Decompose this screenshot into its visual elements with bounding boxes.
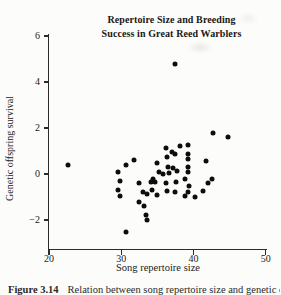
figure-caption-number: Figure 3.14 — [8, 284, 59, 295]
data-point — [174, 168, 179, 173]
data-point — [172, 190, 177, 195]
data-point — [174, 180, 179, 185]
figure-caption-text: Relation between song repertoire size an… — [68, 284, 280, 295]
x-axis-title: Song repertoire size — [97, 262, 219, 273]
data-point — [137, 199, 142, 204]
data-point — [137, 181, 142, 186]
y-tick-mark — [44, 81, 49, 82]
data-point — [144, 191, 149, 196]
y-tick-label: −2 — [18, 214, 40, 226]
y-tick-mark — [44, 219, 49, 220]
y-tick-label: 0 — [18, 168, 40, 180]
data-point — [116, 169, 121, 174]
y-axis-title: Genetic offspring survival — [4, 83, 15, 215]
data-point — [155, 160, 160, 165]
y-tick-label: 2 — [18, 122, 40, 134]
data-point — [161, 172, 166, 177]
data-point — [210, 176, 215, 181]
data-point — [124, 229, 129, 234]
data-point — [186, 190, 191, 195]
y-tick-mark — [44, 35, 49, 36]
data-point — [172, 61, 177, 66]
y-tick-mark — [44, 127, 49, 128]
y-tick-mark — [44, 173, 49, 174]
data-point — [187, 183, 192, 188]
y-axis-line — [48, 34, 49, 250]
data-point — [210, 130, 215, 135]
data-point — [182, 176, 187, 181]
data-point — [205, 181, 210, 186]
data-point — [164, 145, 169, 150]
data-point — [172, 152, 177, 157]
data-point — [116, 188, 121, 193]
data-point — [65, 162, 70, 167]
data-point — [124, 162, 129, 167]
y-tick-label: 4 — [18, 76, 40, 88]
data-point — [117, 193, 122, 198]
data-point — [200, 189, 205, 194]
x-tick-label: 20 — [38, 253, 60, 265]
data-point — [154, 192, 159, 197]
data-point — [117, 178, 122, 183]
data-point — [131, 158, 136, 163]
scan-smudge — [183, 41, 217, 54]
data-point — [185, 157, 190, 162]
x-tick-label: 50 — [255, 253, 277, 265]
x-axis-line — [48, 249, 267, 250]
data-point — [142, 204, 147, 209]
data-point — [153, 180, 158, 185]
data-point — [164, 189, 169, 194]
data-point — [166, 170, 171, 175]
data-point — [226, 135, 231, 140]
data-point — [185, 169, 190, 174]
data-point — [178, 144, 183, 149]
chart-title: Repertoire Size and Breeding Success in … — [80, 13, 263, 40]
figure-caption: Figure 3.14Relation between song reperto… — [8, 284, 280, 295]
chart-title-line2: Success in Great Reed Warblers — [80, 27, 263, 41]
data-point — [164, 181, 169, 186]
chart-title-line1: Repertoire Size and Breeding — [80, 13, 263, 27]
data-point — [204, 159, 209, 164]
data-point — [186, 143, 191, 148]
y-tick-label: 6 — [18, 30, 40, 42]
data-point — [165, 154, 170, 159]
data-point — [192, 195, 197, 200]
data-point — [145, 218, 150, 223]
